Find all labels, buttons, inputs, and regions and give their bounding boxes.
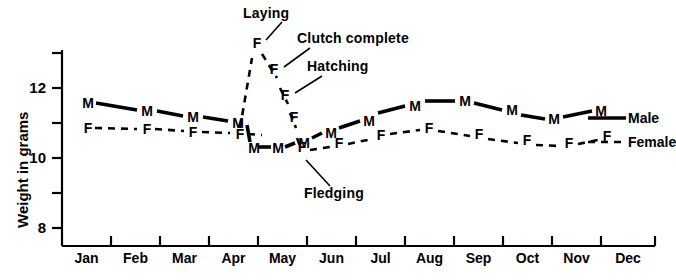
svg-text:F: F	[475, 126, 484, 142]
annotation-hatching: Hatching	[307, 58, 369, 74]
x-label-mar: Mar	[160, 250, 209, 266]
svg-text:F: F	[335, 135, 344, 151]
svg-text:F: F	[290, 109, 299, 125]
svg-text:M: M	[363, 113, 375, 129]
svg-text:M: M	[459, 93, 471, 109]
leader-hatching	[295, 76, 322, 93]
svg-text:M: M	[187, 109, 199, 125]
x-label-nov: Nov	[552, 250, 601, 266]
annotation-fledging: Fledging	[304, 185, 364, 201]
x-label-oct: Oct	[503, 250, 552, 266]
svg-text:F: F	[84, 120, 93, 136]
svg-text:F: F	[298, 139, 307, 155]
svg-text:M: M	[272, 140, 284, 156]
svg-text:M: M	[506, 102, 518, 118]
x-label-jan: Jan	[62, 250, 111, 266]
leader-fledging	[306, 160, 330, 186]
svg-text:F: F	[236, 126, 245, 142]
svg-text:M: M	[141, 103, 153, 119]
legend-label-female: Female	[628, 134, 676, 150]
y-tick-label-12: 12	[16, 79, 46, 96]
x-label-apr: Apr	[209, 250, 258, 266]
y-axis-ticks	[52, 53, 62, 228]
legend-label-male: Male	[628, 110, 659, 126]
y-axis-title: Weight in grams	[14, 112, 31, 228]
x-label-feb: Feb	[111, 250, 160, 266]
svg-text:M: M	[82, 95, 94, 111]
svg-text:F: F	[523, 132, 532, 148]
annotation-laying: Laying	[243, 5, 289, 21]
svg-text:F: F	[425, 120, 434, 136]
svg-text:F: F	[270, 61, 279, 77]
female-markers: F F F F F F F F F F F F F F F F	[84, 35, 612, 155]
x-label-may: May	[258, 250, 307, 266]
svg-text:F: F	[253, 35, 262, 51]
svg-text:M: M	[248, 140, 260, 156]
svg-text:F: F	[143, 121, 152, 137]
annotation-leaders	[266, 22, 330, 186]
leader-laying	[266, 22, 282, 40]
y-tick-label-8: 8	[16, 219, 46, 236]
svg-text:F: F	[189, 124, 198, 140]
svg-text:F: F	[565, 135, 574, 151]
x-axis-ticks	[111, 236, 655, 246]
x-label-dec: Dec	[601, 250, 655, 266]
svg-text:M: M	[548, 111, 560, 127]
y-tick-label-10: 10	[16, 149, 46, 166]
svg-text:F: F	[281, 87, 290, 103]
x-label-aug: Aug	[405, 250, 454, 266]
annotation-clutch-complete: Clutch complete	[297, 30, 409, 46]
x-label-jul: Jul	[356, 250, 405, 266]
x-label-sep: Sep	[454, 250, 503, 266]
svg-text:M: M	[409, 98, 421, 114]
svg-text:F: F	[377, 127, 386, 143]
x-label-jun: Jun	[307, 250, 356, 266]
